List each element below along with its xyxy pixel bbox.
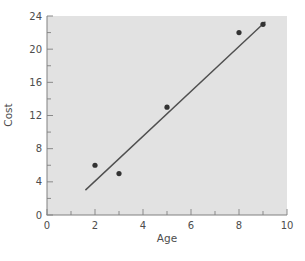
- x-tick-label: 2: [92, 220, 98, 231]
- data-point: [164, 105, 169, 110]
- y-tick-label: 4: [36, 176, 42, 187]
- x-tick-label: 0: [44, 220, 50, 231]
- y-tick-label: 16: [29, 77, 42, 88]
- y-tick-label: 0: [36, 210, 42, 221]
- x-tick-label: 4: [140, 220, 146, 231]
- x-tick-label: 8: [236, 220, 242, 231]
- y-tick-label: 8: [36, 143, 42, 154]
- data-point: [116, 171, 121, 176]
- y-axis-title: Cost: [1, 95, 15, 135]
- data-point: [236, 30, 241, 35]
- y-tick-label: 12: [29, 110, 42, 121]
- x-tick-label: 6: [188, 220, 194, 231]
- y-tick-label: 20: [29, 44, 42, 55]
- x-tick-label: 10: [281, 220, 294, 231]
- scatter-plot-figure: 024681004812162024 Cost Age: [0, 0, 305, 261]
- data-point: [260, 22, 265, 27]
- x-axis-title: Age: [47, 231, 287, 245]
- y-tick-label: 24: [29, 11, 42, 22]
- data-point: [92, 163, 97, 168]
- plot-area: [47, 16, 287, 215]
- scatter-plot: 024681004812162024: [0, 0, 305, 261]
